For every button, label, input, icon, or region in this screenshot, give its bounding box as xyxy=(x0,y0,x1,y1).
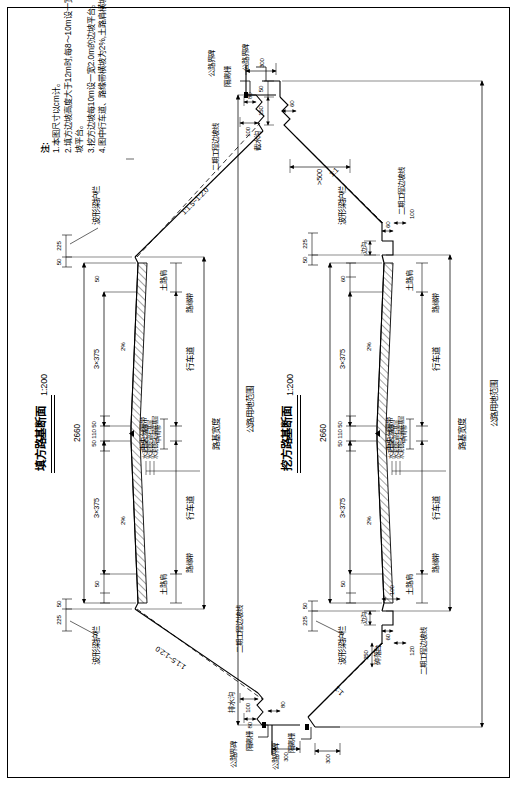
fill-fence-offset-left: 300 xyxy=(283,752,289,762)
cut-intercept-offset: >500 xyxy=(316,169,323,185)
fill-lane-right: 3×375 xyxy=(93,349,100,369)
fill-shoulder-soil-left: 土路肩 xyxy=(160,575,167,595)
cut-intercept-ditch-label: 截水沟 xyxy=(254,131,261,151)
fill-guardrail-label-left: 波形梁护栏 xyxy=(92,626,100,665)
notes-block: 注: 1.本图尺寸以cm计。 2.填方边坡高度大于12m时,每8～10m设一宽 … xyxy=(40,0,108,153)
cut-layer-subbase: 水泥稳定石屑底基层 xyxy=(399,416,404,459)
fill-boundary-marker-left: 公路界碑 xyxy=(230,741,237,768)
fill-ditch-depth-right: 80 xyxy=(247,93,253,99)
fill-guardrail-label-right: 波形梁护栏 xyxy=(92,186,100,225)
note-item-3: 3.挖方边坡每10m设一宽2.0m的边坡平台。 xyxy=(86,0,97,153)
cut-median-dims: 50 110 50 xyxy=(337,421,343,446)
note-item-4: 4.图中行车道、路缘带横坡为2%,土路肩横坡为3%。 xyxy=(97,0,108,153)
cut-boundary-marker-right: 公路界碑 xyxy=(242,44,249,71)
cut-fence-label-left: 隔离栅 xyxy=(288,733,295,753)
fill-section-scale: 1:200 xyxy=(40,374,49,396)
fill-ditch-bottom-left: 80 xyxy=(280,702,286,708)
note-item-2-cont: 坡平台。 xyxy=(74,0,85,153)
cut-shoulder-soil-left: 土路肩 xyxy=(406,575,413,595)
cut-curb-strip-left: 路缘带 xyxy=(432,553,439,573)
cut-guardrail-offset-right: 225 xyxy=(302,239,308,249)
cut-crossfall-right: 2% xyxy=(366,342,372,351)
cut-row-label: 公路用地范围 xyxy=(490,381,498,428)
fill-ditch-top-left: 100 xyxy=(245,703,251,713)
fill-shoulder-right: 50 xyxy=(94,276,100,282)
cut-stage2-slope-right: 二期工程边坡线 xyxy=(398,167,405,215)
fill-fence-label-left: 隔离栅 xyxy=(246,731,253,751)
note-item-1: 1.本图尺寸以cm计。 xyxy=(51,0,62,153)
cut-berm-h-right: 100 xyxy=(409,209,415,219)
cut-section-title: 挖方路基断面 xyxy=(282,406,293,471)
cut-intercept-depth: 60 xyxy=(289,101,295,107)
cut-side-ditch-h2-left: 60 xyxy=(385,634,391,640)
fill-curb-strip-right: 路缘带 xyxy=(186,293,193,313)
fill-ditch-top-right: 100 xyxy=(245,127,251,137)
fill-shoulder-left: 50 xyxy=(94,581,100,587)
cut-guardrail-offset-left: 225 xyxy=(302,616,308,626)
cut-lane-left: 3×375 xyxy=(339,498,346,518)
cut-title-underline2 xyxy=(300,395,301,473)
fill-title-underline2 xyxy=(54,395,55,473)
fill-lane-left: 3×375 xyxy=(93,498,100,518)
fill-guardrail-offset-left: 225 xyxy=(56,615,62,625)
cut-shoulder-outer-right: 50 xyxy=(302,257,308,263)
cut-lane-label-right: 行车道 xyxy=(432,347,440,370)
cut-intercept-w: 150 xyxy=(258,106,264,116)
fill-crossfall-right: 2% xyxy=(120,342,126,351)
fill-roadbed-width-label: 路基宽度 xyxy=(212,418,220,449)
cut-berm-h-left: 120 xyxy=(409,646,415,656)
note-item-2: 2.填方边坡高度大于12m时,每8～10m设一宽 2～3m的边 xyxy=(63,0,74,153)
fill-layer-subbase: 水泥稳定石屑底基层 xyxy=(153,416,158,459)
fill-fence-offset-right: 300 xyxy=(259,58,265,68)
fill-ditch-label-left: 排水沟 xyxy=(228,693,235,713)
fill-shoulder-outer-right: 50 xyxy=(56,259,62,265)
fill-lane-label-right: 行车道 xyxy=(186,347,194,370)
fill-title-underline xyxy=(51,395,52,473)
cut-shoulder-left: 50 xyxy=(340,581,346,587)
fill-fence-label-right: 隔离栅 xyxy=(224,67,231,87)
cut-shoulder-soil-right: 土路肩 xyxy=(406,271,413,291)
cut-berm-label-left: 碎落台 xyxy=(374,645,381,665)
cut-shoulder-right: 60 xyxy=(340,276,346,282)
cut-roadbed-width-label: 路基宽度 xyxy=(458,418,466,449)
cut-lane-label-left: 行车道 xyxy=(432,496,440,519)
cut-intercept-w2: 50 xyxy=(258,86,264,92)
notes-header: 注: xyxy=(40,0,51,153)
fill-stage2-slope-right: 二期工程边坡线 xyxy=(212,123,219,171)
cut-lane-right: 3×375 xyxy=(339,349,346,369)
cut-section-scale: 1:200 xyxy=(286,374,295,396)
fill-total-width: 2660 xyxy=(73,424,81,442)
cut-side-ditch-h2-right: 60 xyxy=(385,222,391,228)
fill-boundary-marker-right: 公路界碑 xyxy=(208,50,215,77)
cut-crossfall-left: 2% xyxy=(366,516,372,525)
cut-side-ditch-label-right: 边沟 xyxy=(361,242,367,254)
drawing-sheet: 填方路基断面 1:200 2660 3×375 3×375 50 110 50 … xyxy=(0,0,519,787)
cut-title-underline xyxy=(297,395,298,473)
cut-berm-w-left: 250 xyxy=(363,650,369,660)
cut-stage2-slope-left: 二期工程边坡线 xyxy=(420,627,427,675)
rotated-drawing-container: 填方路基断面 1:200 2660 3×375 3×375 50 110 50 … xyxy=(0,0,503,771)
cut-curb-strip-right: 路缘带 xyxy=(432,293,439,313)
fill-shoulder-outer-left: 50 xyxy=(56,601,62,607)
cut-guardrail-label-left: 波形梁护栏 xyxy=(338,626,346,665)
cut-boundary-marker-left: 公路界碑 xyxy=(272,743,279,770)
cut-side-ditch-label-left: 边沟 xyxy=(361,612,367,624)
fill-shoulder-soil-right: 土路肩 xyxy=(160,271,167,291)
cut-fence-offset-left: 300 xyxy=(325,754,331,764)
fill-stage2-slope-left: 二期工程边坡线 xyxy=(236,605,243,653)
fill-curb-strip-left: 路缘带 xyxy=(186,553,193,573)
fill-median-dims: 50 110 50 xyxy=(91,421,97,446)
fill-row-label: 公路用地范围 xyxy=(246,387,254,434)
fill-section-title: 填方路基断面 xyxy=(36,406,47,471)
fill-crossfall-left: 2% xyxy=(120,516,126,525)
cut-guardrail-label-right: 波形梁护栏 xyxy=(338,186,346,225)
drawing-canvas: 填方路基断面 1:200 2660 3×375 3×375 50 110 50 … xyxy=(0,0,503,771)
fill-ditch-depth-left: 80 xyxy=(247,722,253,728)
cut-shoulder-outer-left: 50 xyxy=(302,603,308,609)
cut-total-width: 2660 xyxy=(319,424,327,442)
fill-guardrail-offset-right: 225 xyxy=(56,241,62,251)
cut-side-ditch-h1-left: 100 xyxy=(389,585,395,595)
fill-lane-label-left: 行车道 xyxy=(186,496,194,519)
